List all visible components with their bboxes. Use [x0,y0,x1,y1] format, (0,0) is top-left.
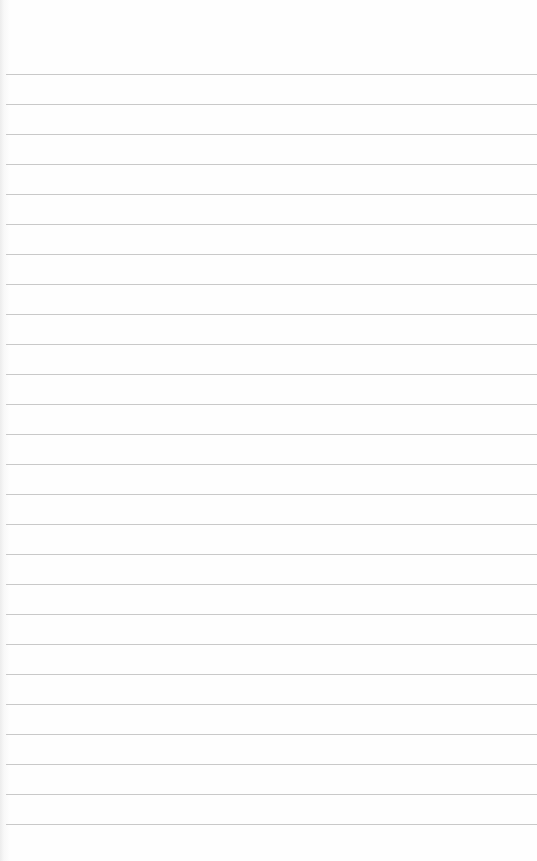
ruled-line [6,224,537,225]
ruled-line [6,104,537,105]
ruled-line [6,464,537,465]
ruled-line [6,194,537,195]
ruled-line [6,494,537,495]
ruled-line [6,614,537,615]
ruled-line [6,824,537,825]
ruled-line [6,284,537,285]
ruled-line [6,764,537,765]
ruled-line [6,554,537,555]
ruled-line [6,674,537,675]
ruled-line [6,134,537,135]
ruled-line [6,734,537,735]
ruled-line [6,644,537,645]
ruled-line [6,794,537,795]
lined-paper [0,0,537,861]
ruled-line [6,704,537,705]
ruled-line [6,404,537,405]
ruled-line [6,524,537,525]
ruled-line [6,374,537,375]
ruled-line [6,434,537,435]
ruled-line [6,254,537,255]
ruled-line [6,344,537,345]
ruled-line [6,74,537,75]
ruled-line [6,584,537,585]
ruled-line [6,314,537,315]
ruled-line [6,164,537,165]
